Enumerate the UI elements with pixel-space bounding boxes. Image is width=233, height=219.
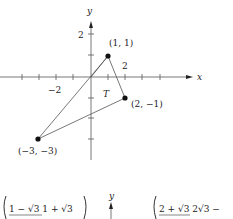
point-label-1-1: (1, 1) — [109, 38, 133, 48]
x-axis-label: x — [197, 72, 202, 82]
bottom-y-axis-label: y — [108, 191, 115, 201]
point-label-neg3-neg3: (−3, −3) — [18, 146, 57, 156]
x-tick-label-2: 2 — [122, 61, 128, 71]
bottom-y-axis-arrow-icon — [109, 202, 113, 209]
region-label-T: T — [103, 89, 110, 99]
triangle-T — [38, 56, 125, 139]
x-tick-label-neg2: −2 — [48, 85, 61, 95]
y-axis-arrow-icon — [89, 21, 93, 28]
left-paren-icon-2 — [154, 196, 156, 219]
left-paren-icon — [4, 196, 6, 219]
y-axis-label: y — [86, 6, 93, 16]
point-label-2-neg1: (2, −1) — [131, 99, 163, 109]
bottom-left-expression: 1 − √3 1 + √3 — [9, 204, 73, 214]
triangle-diagram: y x 2 2 −2 T (1, 1) (2, −1) (−3, −3) 1 −… — [0, 0, 233, 219]
y-tick-label-2: 2 — [78, 30, 84, 40]
x-axis-arrow-icon — [186, 75, 193, 79]
point-2-neg1 — [122, 95, 127, 100]
point-1-1 — [105, 53, 110, 58]
point-neg3-neg3 — [35, 136, 40, 141]
right-paren-icon — [84, 196, 86, 219]
segment — [91, 56, 108, 77]
bottom-right-expression: 2 + √3 2√3 − — [159, 204, 220, 214]
